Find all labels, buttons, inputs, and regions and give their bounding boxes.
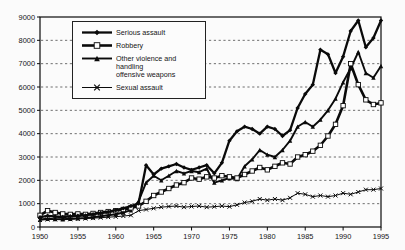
marker-square-open bbox=[227, 175, 231, 179]
legend-key-diamond-icon bbox=[81, 28, 113, 37]
x-axis-tick-label: 1955 bbox=[70, 232, 86, 241]
marker-square-open bbox=[144, 199, 148, 203]
marker-square-open bbox=[197, 177, 201, 181]
marker-square-open bbox=[159, 190, 163, 194]
marker-square-open bbox=[311, 149, 315, 153]
x-axis-tick-label: 1985 bbox=[297, 232, 313, 241]
legend-item-label: Other violence and handlingoffensive wea… bbox=[116, 54, 201, 79]
marker-square-open bbox=[280, 161, 284, 165]
marker-square-open bbox=[318, 143, 322, 147]
marker-square-open bbox=[250, 169, 254, 173]
marker-square-open bbox=[94, 43, 100, 49]
y-axis-tick-label: 1000 bbox=[19, 199, 35, 208]
marker-square-open bbox=[212, 176, 216, 180]
legend-item-label: Serious assault bbox=[116, 28, 165, 37]
marker-square-open bbox=[258, 165, 262, 169]
marker-square-open bbox=[288, 162, 292, 166]
y-axis-tick-label: 8000 bbox=[19, 36, 35, 45]
marker-square-open bbox=[348, 61, 352, 65]
marker-square-open bbox=[356, 82, 360, 86]
x-axis-tick-label: 1995 bbox=[373, 232, 389, 241]
x-axis-tick-label: 1970 bbox=[183, 232, 199, 241]
crime-trends-chart: 0100020003000400050006000700080009000195… bbox=[0, 0, 405, 250]
legend-item-robbery: Robbery bbox=[81, 41, 201, 50]
marker-square-open bbox=[326, 134, 330, 138]
marker-square-open bbox=[182, 180, 186, 184]
x-axis-tick-label: 1960 bbox=[108, 232, 124, 241]
marker-diamond bbox=[94, 30, 100, 36]
legend-item-label: Robbery bbox=[116, 41, 143, 50]
y-axis-tick-label: 2000 bbox=[19, 176, 35, 185]
legend-item-serious-assault: Serious assault bbox=[81, 28, 201, 37]
y-axis-tick-label: 6000 bbox=[19, 83, 35, 92]
marker-square-open bbox=[220, 173, 224, 177]
marker-square-open bbox=[303, 152, 307, 156]
marker-square-open bbox=[151, 193, 155, 197]
marker-square-open bbox=[205, 175, 209, 179]
x-axis-tick-label: 1965 bbox=[145, 232, 161, 241]
marker-square-open bbox=[242, 172, 246, 176]
chart-legend: Serious assaultRobberyOther violence and… bbox=[72, 21, 206, 99]
legend-item-other-violence-and-handling-offensive-weapons: Other violence and handlingoffensive wea… bbox=[81, 54, 201, 79]
marker-square-open bbox=[174, 183, 178, 187]
marker-square-open bbox=[45, 208, 49, 212]
x-axis-tick-label: 1990 bbox=[335, 232, 351, 241]
y-axis-tick-label: 4000 bbox=[19, 129, 35, 138]
y-axis-tick-label: 3000 bbox=[19, 153, 35, 162]
y-axis-tick-label: 9000 bbox=[19, 13, 35, 22]
marker-square-open bbox=[341, 103, 345, 107]
legend-item-sexual-assault: Sexual assault bbox=[81, 83, 201, 92]
legend-key-x-icon bbox=[81, 83, 113, 92]
x-axis-tick-label: 1975 bbox=[221, 232, 237, 241]
marker-square-open bbox=[379, 101, 383, 105]
y-axis-tick-label: 7000 bbox=[19, 59, 35, 68]
marker-square-open bbox=[265, 168, 269, 172]
marker-square-open bbox=[167, 186, 171, 190]
marker-square-open bbox=[364, 98, 368, 102]
marker-square-open bbox=[333, 122, 337, 126]
marker-triangle bbox=[356, 50, 360, 54]
marker-square-open bbox=[273, 164, 277, 168]
x-axis-tick-label: 1980 bbox=[259, 232, 275, 241]
marker-square-open bbox=[53, 210, 57, 214]
legend-item-label: Sexual assault bbox=[116, 83, 163, 92]
marker-square-open bbox=[189, 176, 193, 180]
marker-triangle bbox=[379, 64, 383, 68]
x-axis-tick-label: 1950 bbox=[32, 232, 48, 241]
legend-key-square-open-icon bbox=[81, 41, 113, 50]
marker-square-open bbox=[235, 176, 239, 180]
marker-square-open bbox=[371, 102, 375, 106]
y-axis-tick-label: 5000 bbox=[19, 106, 35, 115]
legend-key-triangle-icon bbox=[81, 54, 113, 63]
y-axis-tick-label: 0 bbox=[31, 223, 35, 232]
marker-square-open bbox=[295, 155, 299, 159]
